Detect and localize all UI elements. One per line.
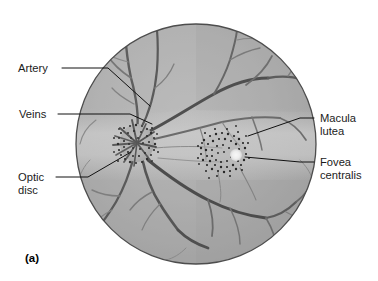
label-veins: Veins (19, 108, 47, 120)
label-optic-disc-line1: Optic (18, 171, 45, 183)
retina-figure: Artery Veins Optic disc Macula lutea Fov… (0, 0, 378, 281)
label-fovea-line2: centralis (320, 169, 362, 181)
label-artery: Artery (18, 62, 48, 74)
fovea-centralis-spot (230, 149, 242, 161)
label-macula-line2: lutea (320, 125, 345, 137)
label-macula-line1: Macula (320, 112, 357, 124)
label-optic-disc-line2: disc (18, 184, 38, 196)
label-fovea-line1: Fovea (320, 156, 352, 168)
panel-label: (a) (25, 252, 39, 264)
fundus-disc (76, 24, 316, 266)
